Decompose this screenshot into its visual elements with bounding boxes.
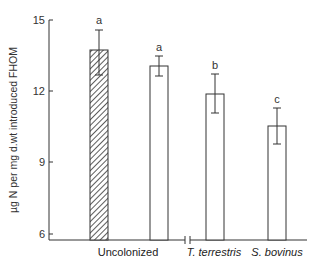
significance-letter: c bbox=[274, 93, 280, 105]
y-tick-12: 12 bbox=[33, 85, 45, 97]
bar-s-bovinus: c bbox=[268, 93, 286, 240]
category-label-t-terrestris: T. terrestris bbox=[187, 246, 242, 258]
y-tick-6: 6 bbox=[39, 228, 45, 240]
y-tick-9: 9 bbox=[39, 156, 45, 168]
bar-t-terrestris: b bbox=[206, 59, 224, 240]
bar-uncolonized-hatched: a bbox=[90, 14, 108, 240]
y-axis: 15 12 9 6 µg N per mg d.wt introduced FH… bbox=[7, 14, 53, 240]
category-label-uncolonized: Uncolonized bbox=[98, 246, 159, 258]
bar-uncolonized-open: a bbox=[150, 41, 168, 240]
significance-letter: a bbox=[156, 41, 163, 53]
significance-letter: a bbox=[96, 14, 103, 26]
bar-chart: 15 12 9 6 µg N per mg d.wt introduced FH… bbox=[0, 0, 323, 268]
category-label-s-bovinus: S. bovinus bbox=[251, 246, 303, 258]
y-axis-label: µg N per mg d.wt introduced FHOM bbox=[7, 47, 19, 213]
y-tick-15: 15 bbox=[33, 14, 45, 26]
significance-letter: b bbox=[212, 59, 218, 71]
